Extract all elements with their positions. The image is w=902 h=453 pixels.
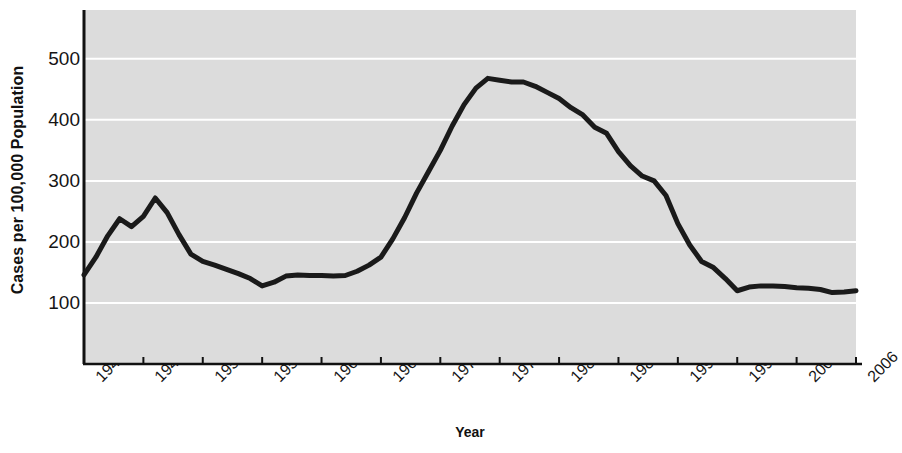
plot-background xyxy=(84,10,856,364)
plot-background-group xyxy=(84,10,856,364)
x-axis-title: Year xyxy=(84,424,856,440)
